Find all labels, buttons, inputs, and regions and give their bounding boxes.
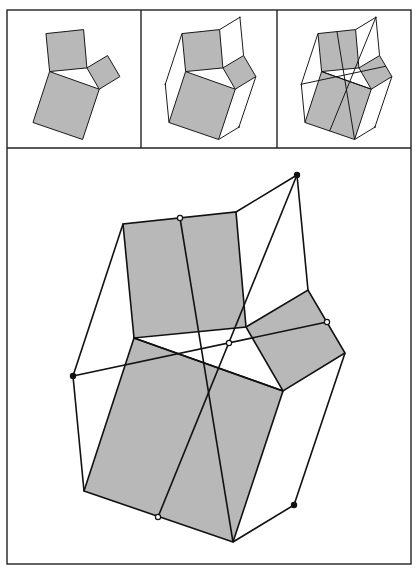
hexagon-edge — [73, 376, 84, 491]
vertex-dot-filled — [239, 16, 241, 18]
square-on-small-leg — [359, 56, 392, 90]
square-on-short-leg — [318, 30, 359, 72]
square-on-hypotenuse — [33, 72, 99, 140]
panel-main — [70, 172, 345, 542]
square-on-short-leg — [123, 212, 246, 338]
vertex-dot-filled — [300, 83, 302, 85]
square-on-small-leg — [246, 290, 345, 391]
vertex-dot-filled — [291, 502, 297, 508]
square-on-hypotenuse — [169, 72, 235, 140]
vertex-dot-filled — [294, 172, 300, 178]
panel-3 — [300, 16, 391, 139]
square-on-hypotenuse — [84, 338, 283, 542]
hexagon-edge — [356, 17, 376, 29]
square-on-small-leg — [223, 56, 256, 90]
hexagon-edge — [165, 34, 182, 85]
vertex-dot-filled — [238, 126, 240, 128]
square-on-short-leg — [46, 30, 87, 72]
midpoint-dot-open — [324, 319, 329, 324]
hexagon-edge — [73, 224, 123, 376]
vertex-dot-filled — [374, 126, 376, 128]
midpoint-dot-open — [226, 340, 231, 345]
hexagon-edge — [220, 17, 240, 29]
midpoint-dot-open — [177, 215, 182, 220]
hexagon-edge — [240, 17, 244, 55]
vertex-dot-filled — [375, 16, 377, 18]
hexagon-edge — [236, 175, 297, 212]
midpoint-dot-open — [155, 514, 160, 519]
hexagon-edge — [301, 34, 318, 85]
square-on-small-leg — [87, 56, 120, 90]
square-on-short-leg — [182, 30, 223, 72]
hexagon-edge — [301, 84, 305, 122]
vertex-dot-filled — [70, 373, 76, 379]
hexagon-edge — [165, 84, 169, 122]
hexagon-edge — [376, 17, 380, 55]
panel-2 — [164, 16, 255, 139]
pythagoras-dissection-figure — [0, 0, 416, 574]
vertex-dot-filled — [164, 83, 166, 85]
panel-1 — [33, 30, 120, 140]
panels — [33, 16, 392, 542]
hexagon-edge — [297, 175, 308, 290]
